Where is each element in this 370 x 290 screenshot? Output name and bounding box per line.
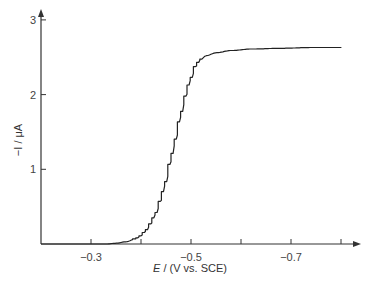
x-axis-label: E / (V vs. SCE) (153, 262, 227, 274)
chart: −0.3−0.5−0.7123 E / (V vs. SCE) −I / μA (0, 0, 370, 290)
x-tick-label: −0.7 (280, 251, 302, 263)
data-line (41, 48, 341, 245)
axes (38, 9, 361, 247)
x-tick-label: −0.3 (80, 251, 102, 263)
y-tick-label: 2 (30, 89, 36, 101)
voltammogram-curve (41, 48, 341, 245)
y-axis-arrow-icon (38, 9, 44, 17)
y-tick-label: 3 (30, 14, 36, 26)
x-axis-label-units: / (V vs. SCE) (160, 262, 227, 274)
ticks: −0.3−0.5−0.7123 (30, 14, 341, 263)
y-tick-label: 1 (30, 163, 36, 175)
x-axis-arrow-icon (353, 241, 361, 247)
y-axis-label: −I / μA (12, 123, 24, 156)
